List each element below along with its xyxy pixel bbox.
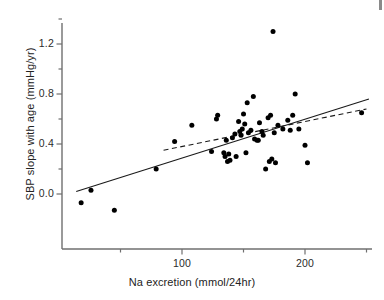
data-point bbox=[240, 127, 245, 132]
x-tick-label: 100 bbox=[162, 257, 202, 269]
x-axis-label: Na excretion (mmol/24hr) bbox=[0, 276, 384, 288]
data-point bbox=[227, 158, 232, 163]
regression-all bbox=[76, 99, 369, 192]
data-point bbox=[285, 118, 290, 123]
data-point-markers bbox=[79, 29, 364, 213]
data-point bbox=[256, 138, 261, 143]
regression-lines bbox=[76, 99, 369, 192]
axis-lines bbox=[62, 23, 372, 249]
data-point bbox=[280, 127, 285, 132]
data-point bbox=[236, 119, 241, 124]
data-point bbox=[293, 92, 298, 97]
data-point bbox=[257, 120, 262, 125]
data-point bbox=[261, 133, 266, 138]
data-point bbox=[272, 130, 277, 135]
data-point bbox=[303, 143, 308, 148]
plot-canvas bbox=[0, 0, 384, 300]
data-point bbox=[251, 94, 256, 99]
data-point bbox=[268, 113, 273, 118]
data-point bbox=[242, 122, 247, 127]
data-point bbox=[215, 113, 220, 118]
data-point bbox=[88, 188, 93, 193]
data-point bbox=[269, 157, 274, 162]
data-point bbox=[112, 208, 117, 213]
data-point bbox=[79, 200, 84, 205]
x-tick-label: 200 bbox=[285, 257, 325, 269]
data-point bbox=[243, 150, 248, 155]
data-point bbox=[290, 113, 295, 118]
data-point bbox=[172, 139, 177, 144]
data-point bbox=[232, 132, 237, 137]
data-point bbox=[241, 112, 246, 117]
data-point bbox=[154, 167, 159, 172]
page-edge-mark bbox=[379, 0, 382, 10]
data-point bbox=[359, 110, 364, 115]
data-point bbox=[296, 127, 301, 132]
regression-excluding-extremes bbox=[164, 109, 367, 150]
x-axis-ticks bbox=[121, 249, 367, 255]
data-point bbox=[271, 29, 276, 34]
data-point bbox=[273, 160, 278, 165]
data-point bbox=[263, 167, 268, 172]
y-axis-label: SBP slope with age (mmHg/yr) bbox=[24, 24, 36, 224]
data-point bbox=[189, 123, 194, 128]
scatter-plot-figure: 0.00.40.81.2 100200 SBP slope with age (… bbox=[0, 0, 384, 300]
data-point bbox=[209, 149, 214, 154]
data-point bbox=[239, 133, 244, 138]
data-point bbox=[248, 128, 253, 133]
data-point bbox=[275, 123, 280, 128]
y-axis-ticks bbox=[57, 19, 63, 194]
data-point bbox=[226, 152, 231, 157]
data-point bbox=[288, 128, 293, 133]
data-point bbox=[305, 160, 310, 165]
data-point bbox=[234, 154, 239, 159]
data-point bbox=[245, 100, 250, 105]
data-point bbox=[224, 138, 229, 143]
